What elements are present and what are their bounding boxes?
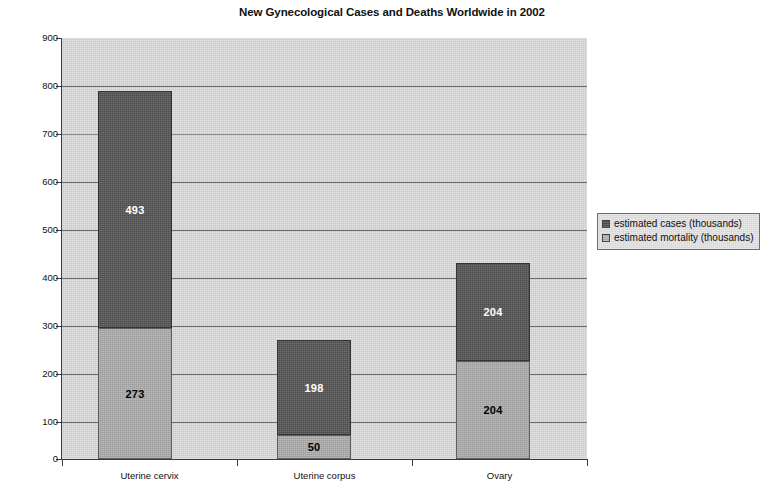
chart-container: New Gynecological Cases and Deaths World… bbox=[0, 0, 784, 499]
bar-segment-mortality[interactable]: 204 bbox=[456, 361, 530, 459]
bar-value-mortality: 50 bbox=[308, 441, 321, 453]
x-category-label-uterine-corpus: Uterine corpus bbox=[237, 470, 412, 481]
legend-swatch-cases-icon bbox=[602, 220, 610, 228]
bar-group-uterine-corpus: 198 50 bbox=[277, 38, 351, 459]
y-tick-label-400: 400 bbox=[12, 273, 58, 283]
y-tick-label-700: 700 bbox=[12, 129, 58, 139]
y-tick-label-600: 600 bbox=[12, 177, 58, 187]
x-category-label-ovary: Ovary bbox=[412, 470, 587, 481]
y-tick-label-100: 100 bbox=[12, 417, 58, 427]
x-tick-mark bbox=[237, 460, 238, 466]
y-tick-label-300: 300 bbox=[12, 321, 58, 331]
bar-segment-cases[interactable]: 204 bbox=[456, 263, 530, 361]
plot-area: 493 273 198 50 204 204 bbox=[62, 38, 587, 459]
bar-segment-cases[interactable]: 198 bbox=[277, 340, 351, 435]
x-axis-line bbox=[61, 459, 588, 460]
x-tick-mark bbox=[62, 460, 63, 466]
bar-value-cases: 204 bbox=[484, 306, 503, 318]
bar-segment-mortality[interactable]: 273 bbox=[98, 328, 172, 459]
x-category-label-uterine-cervix: Uterine cervix bbox=[62, 470, 237, 481]
legend-item-cases[interactable]: estimated cases (thousands) bbox=[602, 217, 754, 231]
bar-segment-cases[interactable]: 493 bbox=[98, 91, 172, 328]
legend-item-mortality[interactable]: estimated mortality (thousands) bbox=[602, 231, 754, 245]
bar-value-mortality: 204 bbox=[484, 404, 503, 416]
chart-legend: estimated cases (thousands) estimated mo… bbox=[597, 213, 760, 250]
y-tick-label-900: 900 bbox=[12, 33, 58, 43]
legend-swatch-mortality-icon bbox=[602, 234, 610, 242]
chart-title: New Gynecological Cases and Deaths World… bbox=[0, 6, 784, 18]
x-tick-mark bbox=[587, 460, 588, 466]
bar-segment-mortality[interactable]: 50 bbox=[277, 435, 351, 459]
y-tick-label-200: 200 bbox=[12, 369, 58, 379]
bar-group-ovary: 204 204 bbox=[456, 38, 530, 459]
bar-value-cases: 493 bbox=[126, 204, 145, 216]
bar-group-uterine-cervix: 493 273 bbox=[98, 38, 172, 459]
x-tick-mark bbox=[412, 460, 413, 466]
y-tick-label-800: 800 bbox=[12, 81, 58, 91]
bar-value-cases: 198 bbox=[305, 382, 324, 394]
legend-label-mortality: estimated mortality (thousands) bbox=[614, 232, 754, 244]
bar-value-mortality: 273 bbox=[126, 388, 145, 400]
y-tick-label-500: 500 bbox=[12, 225, 58, 235]
y-tick-label-0: 0 bbox=[12, 454, 58, 464]
y-axis-line bbox=[61, 38, 62, 460]
legend-label-cases: estimated cases (thousands) bbox=[614, 218, 742, 230]
